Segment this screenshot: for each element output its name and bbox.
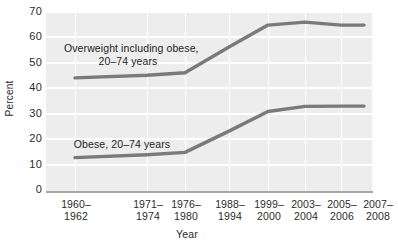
y-axis-title: Percent	[4, 69, 15, 129]
y-tick-label: 70	[2, 6, 42, 17]
y-tick-label: 20	[2, 133, 42, 144]
series-layer	[46, 11, 372, 191]
y-tick-label: 60	[2, 31, 42, 42]
x-tick-label-top: 2007–	[348, 198, 398, 210]
y-tick-label: 50	[2, 57, 42, 68]
x-axis-title: Year	[0, 228, 374, 240]
annotation-overweight-line2: 20–74 years	[64, 55, 192, 68]
x-tick-1960-1962: 1960– 1962	[46, 198, 106, 222]
annotation-overweight: Overweight including obese, 20–74 years	[64, 42, 192, 67]
x-tick-2007-2008: 2007– 2008	[348, 198, 398, 222]
annotation-obese-line1: Obese, 20–74 years	[57, 138, 187, 151]
x-axis-line	[46, 191, 373, 193]
y-tick-label: 10	[2, 159, 42, 170]
annotation-overweight-line1: Overweight including obese,	[64, 42, 192, 55]
y-tick-label: 0	[2, 184, 42, 195]
x-tick-label-bottom: 1962	[46, 210, 106, 222]
x-tick-label-bottom: 2008	[348, 210, 398, 222]
x-tick-label-top: 1960–	[46, 198, 106, 210]
annotation-obese: Obese, 20–74 years	[57, 138, 187, 151]
